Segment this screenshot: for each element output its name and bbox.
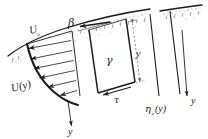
slope-diagram: U 0 β U(y) γ τ y y y η a (y) <box>0 0 208 139</box>
figure-container: U 0 β U(y) γ τ y y y η a (y) <box>0 0 208 139</box>
y-axis-left-group <box>68 101 72 126</box>
y-axis-right-line <box>182 30 187 96</box>
normal-stress-group <box>150 11 180 96</box>
normal-stress-line <box>170 11 180 94</box>
normal-stress-line <box>150 14 159 96</box>
velocity-profile-right-edge <box>72 31 80 96</box>
velocity-profile-group <box>27 31 80 105</box>
soil-element-left-edge <box>89 30 98 93</box>
slope-surface-line-right <box>160 5 202 11</box>
velocity-arrow <box>31 51 73 60</box>
label-tau: τ <box>114 95 120 105</box>
velocity-arrow <box>48 81 76 88</box>
label-eta-a-group: η a (y) <box>145 103 167 116</box>
y-axis-right-group <box>182 30 187 96</box>
label-u-of-y: U(y) <box>10 77 33 95</box>
label-depth-y: y <box>135 48 141 59</box>
y-axis-left-line <box>68 101 72 126</box>
label-u-zero-subscript: 0 <box>37 32 41 38</box>
label-beta: β <box>67 17 74 30</box>
velocity-profile-curve <box>27 44 78 105</box>
label-y-axis-left: y <box>67 126 73 137</box>
label-eta-argument: (y) <box>155 103 167 115</box>
label-gamma: γ <box>106 54 113 67</box>
label-y-axis-right: y <box>190 95 196 106</box>
velocity-arrow <box>40 71 75 79</box>
depth-dimension-tick-bottom <box>136 80 145 83</box>
label-eta: η <box>145 103 151 114</box>
velocity-arrow <box>34 61 74 69</box>
soil-element-right-edge <box>126 19 135 82</box>
velocity-arrow <box>60 91 77 96</box>
